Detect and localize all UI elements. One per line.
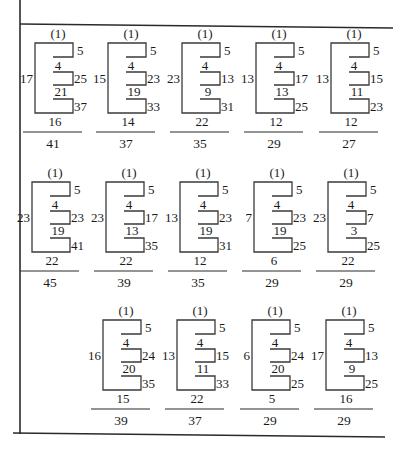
- inner-label-1: 4: [348, 197, 355, 212]
- left-label: 13: [165, 210, 178, 225]
- right-label-3: 25: [367, 238, 380, 253]
- right-label-3: 25: [293, 238, 306, 253]
- inner-label-2: 11: [197, 361, 210, 376]
- right-label-2: 15: [216, 348, 229, 363]
- inner-label-2: 9: [349, 361, 356, 376]
- right-label-2: 23: [219, 210, 232, 225]
- inner-label-2: 19: [274, 223, 287, 238]
- left-label: 17: [311, 348, 325, 363]
- right-label-3: 33: [147, 99, 160, 114]
- bottom-label: 15: [117, 391, 130, 406]
- result-value: 39: [114, 413, 128, 428]
- inner-label-1: 4: [276, 58, 283, 73]
- right-label-2: 17: [145, 210, 159, 225]
- right-label-1: 5: [74, 182, 81, 197]
- right-label-2: 24: [142, 348, 156, 363]
- right-label-1: 5: [368, 320, 375, 335]
- inner-label-1: 4: [346, 335, 353, 350]
- inner-label-2: 9: [205, 84, 212, 99]
- right-label-3: 31: [219, 238, 232, 253]
- inner-label-2: 19: [128, 84, 141, 99]
- bracket-outline: [35, 43, 73, 113]
- top-label: (1): [50, 26, 65, 41]
- bracket-outline: [108, 43, 146, 113]
- left-label: 17: [20, 71, 34, 86]
- right-label-1: 5: [150, 43, 157, 58]
- bracket-outline: [180, 182, 218, 252]
- right-label-3: 35: [145, 238, 158, 253]
- top-label: (1): [192, 303, 207, 318]
- right-label-2: 24: [291, 348, 305, 363]
- inner-label-2: 21: [55, 84, 68, 99]
- inner-label-1: 4: [274, 197, 281, 212]
- inner-label-1: 4: [197, 335, 204, 350]
- bottom-label: 22: [342, 253, 355, 268]
- inner-label-1: 4: [52, 197, 59, 212]
- right-label-3: 25: [291, 376, 304, 391]
- bottom-label: 16: [340, 391, 354, 406]
- left-label: 23: [313, 210, 326, 225]
- bracket-outline: [252, 320, 290, 390]
- bracket-diagram: (1)54131511231227: [316, 26, 383, 151]
- inner-label-1: 4: [351, 58, 358, 73]
- result-value: 29: [339, 275, 353, 290]
- top-label: (1): [118, 303, 133, 318]
- bracket-diagram: (1)54231713352239: [91, 165, 159, 290]
- inner-label-2: 13: [126, 223, 139, 238]
- left-label: 23: [167, 71, 180, 86]
- left-label: 23: [91, 210, 104, 225]
- inner-label-2: 19: [52, 223, 65, 238]
- inner-label-2: 19: [200, 223, 213, 238]
- bracket-outline: [106, 182, 144, 252]
- right-label-1: 5: [77, 43, 84, 58]
- result-value: 29: [267, 136, 281, 151]
- right-label-2: 7: [367, 210, 374, 225]
- right-label-3: 41: [71, 238, 84, 253]
- right-label-1: 5: [373, 43, 380, 58]
- bottom-label: 22: [46, 253, 59, 268]
- right-label-1: 5: [294, 320, 301, 335]
- bracket-diagram: (1)546242025529: [240, 303, 305, 428]
- result-value: 41: [46, 136, 60, 151]
- top-label: (1): [269, 165, 284, 180]
- right-label-2: 23: [147, 71, 160, 86]
- inner-label-2: 3: [351, 223, 358, 238]
- left-label: 6: [244, 348, 251, 363]
- bracket-diagram: (1)5423139312235: [167, 26, 234, 151]
- top-label: (1): [195, 165, 210, 180]
- right-label-2: 17: [295, 71, 309, 86]
- right-label-2: 23: [293, 210, 306, 225]
- result-value: 29: [337, 413, 351, 428]
- left-label: 15: [93, 71, 106, 86]
- inner-label-2: 20: [123, 361, 136, 376]
- bracket-diagram: (1)54172521371641: [20, 26, 88, 151]
- right-label-1: 5: [145, 320, 152, 335]
- bracket-diagram: (1)54132319311235: [165, 165, 232, 290]
- inner-label-1: 4: [128, 58, 135, 73]
- top-label: (1): [123, 26, 138, 41]
- left-label: 13: [241, 71, 254, 86]
- top-label: (1): [346, 26, 361, 41]
- frame-bottom-rule: [13, 433, 385, 437]
- bracket-diagram: (1)54232319412245: [17, 165, 84, 290]
- right-label-2: 23: [71, 210, 84, 225]
- right-label-3: 23: [370, 99, 383, 114]
- bottom-label: 22: [196, 114, 209, 129]
- left-label: 13: [162, 348, 175, 363]
- bracket-diagram: (1)5417139251629: [311, 303, 378, 428]
- bracket-outline: [256, 43, 294, 113]
- bracket-outline: [177, 320, 215, 390]
- right-label-1: 5: [219, 320, 226, 335]
- bracket-outline: [328, 182, 366, 252]
- result-value: 29: [263, 413, 277, 428]
- result-value: 27: [342, 136, 356, 151]
- top-label: (1): [341, 303, 356, 318]
- bottom-label: 16: [49, 114, 63, 129]
- bottom-label: 22: [120, 253, 133, 268]
- left-label: 13: [316, 71, 329, 86]
- right-label-3: 25: [365, 376, 378, 391]
- top-label: (1): [197, 26, 212, 41]
- bracket-outline: [182, 43, 220, 113]
- right-label-1: 5: [224, 43, 231, 58]
- bracket-outline: [32, 182, 70, 252]
